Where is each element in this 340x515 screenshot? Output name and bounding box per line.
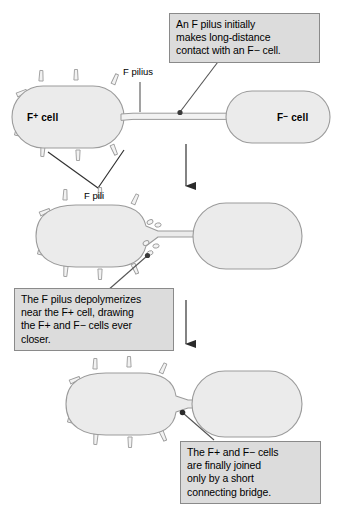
callout-1-leader-dot [177,110,182,115]
panel-3-f-plus-cell-with-bridge [66,373,196,435]
callout-2-line-3: the F+ and F− cells ever [21,319,168,332]
panel-3-f-minus-cell-body [192,371,302,437]
callout-2-line-2: near the F+ cell, drawing [21,306,168,319]
callout-3-line-2: are finally joined [187,459,315,472]
f-pilius-label: F pilius [123,66,153,77]
callout-connecting-bridge: The F+ and F− cells are finally joined o… [180,441,321,504]
callout-3-line-4: connecting bridge. [187,486,315,499]
callout-3-line-3: only by a short [187,472,315,485]
f-pilus-tube [121,113,229,120]
panel-2-f-plus-cell-with-neck [36,205,196,267]
f-plus-cell-label: F+ cell [27,112,58,123]
callout-2-line-1: The F pilus depolymerizes [21,293,168,306]
f-pili-bracket [48,150,124,188]
callout-1-line-1: An F pilus initially [176,18,314,31]
f-minus-cell-label: F− cell [277,112,308,123]
callout-1-line-3: contact with an F− cell. [176,44,314,57]
callout-long-distance-contact: An F pilus initially makes long-distance… [169,13,320,63]
callout-2-leader-dot [145,253,150,258]
callout-3-leader-dot [180,410,186,416]
f-pili-label: F pili [84,190,104,201]
conjugation-diagram: F+ cell F− cell F pilius F pili An F pil… [0,0,340,515]
callout-1-line-2: makes long-distance [176,31,314,44]
panel-3-bridge [66,357,302,448]
panel-2-retracting [36,188,302,292]
callout-3-line-1: The F+ and F− cells [187,446,315,459]
callout-depolymerizes: The F pilus depolymerizes near the F+ ce… [14,288,174,351]
callout-2-line-4: closer. [21,333,168,346]
diagram-canvas [0,0,340,515]
panel-2-f-minus-cell-body [193,203,302,269]
